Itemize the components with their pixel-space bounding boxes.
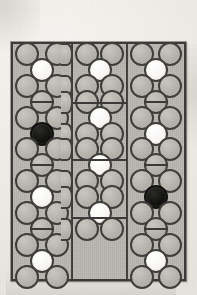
column-middle bbox=[71, 44, 128, 279]
empty-ring bbox=[45, 265, 69, 289]
empty-ring bbox=[100, 217, 124, 241]
clipped-ring-left bbox=[61, 218, 73, 241]
empty-ring bbox=[75, 217, 99, 241]
column-right bbox=[128, 44, 184, 279]
empty-ring bbox=[15, 265, 39, 289]
clipped-ring-left bbox=[61, 91, 73, 114]
packing-diagram-assembly bbox=[11, 42, 186, 281]
empty-ring bbox=[130, 265, 154, 289]
section-divider bbox=[73, 159, 126, 161]
clipped-ring-left bbox=[61, 186, 73, 209]
section-divider bbox=[73, 217, 126, 219]
lattice-row-pair bbox=[13, 265, 71, 289]
clipped-ring-left bbox=[61, 138, 73, 161]
section-divider bbox=[73, 102, 126, 104]
lattice-row-pair bbox=[128, 265, 184, 289]
empty-ring bbox=[158, 265, 182, 289]
lattice-row-pair bbox=[73, 217, 126, 241]
clipped-ring-left bbox=[61, 43, 73, 66]
